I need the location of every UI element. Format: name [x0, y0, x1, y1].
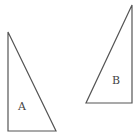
triangle-a-label: A: [17, 100, 27, 113]
triangle-b: [86, 5, 132, 103]
triangle-b-label: B: [112, 74, 120, 87]
diagram-canvas: A B: [0, 0, 139, 136]
triangle-a: [8, 32, 56, 131]
